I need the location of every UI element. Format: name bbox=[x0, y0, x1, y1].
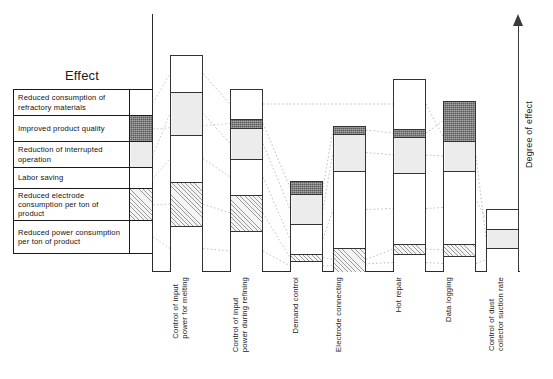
bar-segment-white[interactable] bbox=[487, 210, 518, 230]
chart-canvas: Effect Reduced consumption of refractory… bbox=[0, 0, 553, 379]
bar-segment-hatch[interactable] bbox=[334, 249, 365, 272]
legend-swatch-lightgray bbox=[130, 142, 152, 167]
bar-segment-lightgray[interactable] bbox=[487, 230, 518, 249]
vertical-axis-line bbox=[152, 14, 153, 271]
legend-row[interactable]: Reduced power consumption per ton of pro… bbox=[14, 221, 152, 253]
effect-legend-table: Reduced consumption of refractory materi… bbox=[13, 89, 153, 254]
bar-segment-white[interactable] bbox=[171, 56, 202, 93]
stacked-bar[interactable] bbox=[333, 126, 366, 271]
bar-segment-white[interactable] bbox=[231, 160, 262, 196]
bar-segment-lightgray[interactable] bbox=[334, 135, 365, 172]
legend-swatch-white bbox=[130, 221, 152, 253]
category-label: Control of input power for melting bbox=[171, 277, 190, 339]
bar-segment-dark[interactable] bbox=[394, 130, 425, 138]
bar-segment-dark[interactable] bbox=[231, 120, 262, 129]
bar-segment-lightgray[interactable] bbox=[394, 138, 425, 174]
stacked-bar[interactable] bbox=[393, 79, 426, 271]
stacked-bar[interactable] bbox=[486, 209, 519, 271]
category-label: Control of input power during refining bbox=[231, 277, 250, 352]
legend-row-label: Reduced power consumption per ton of pro… bbox=[14, 221, 130, 253]
category-label: Hot repair bbox=[394, 277, 403, 312]
legend-swatch-white bbox=[130, 168, 152, 188]
bar-segment-white[interactable] bbox=[444, 257, 475, 272]
bar-segment-hatch[interactable] bbox=[444, 245, 475, 257]
bar-segment-white[interactable] bbox=[171, 136, 202, 183]
legend-row-label: Reduced electrode consumption per ton of… bbox=[14, 189, 130, 220]
legend-row-label: Labor saving bbox=[14, 168, 130, 188]
legend-row-label: Reduced consumption of refractory materi… bbox=[14, 90, 130, 115]
bar-segment-hatch[interactable] bbox=[231, 196, 262, 232]
stacked-bar[interactable] bbox=[290, 181, 323, 271]
bar-segment-lightgray[interactable] bbox=[231, 129, 262, 160]
legend-row[interactable]: Reduction of interrupted operation bbox=[14, 142, 152, 168]
legend-row[interactable]: Improved product quality bbox=[14, 116, 152, 142]
legend-row[interactable]: Reduced consumption of refractory materi… bbox=[14, 90, 152, 116]
legend-swatch-white bbox=[130, 90, 152, 115]
bar-segment-white[interactable] bbox=[231, 232, 262, 272]
bar-segment-white[interactable] bbox=[171, 227, 202, 272]
legend-title: Effect bbox=[12, 68, 152, 83]
bar-segment-white[interactable] bbox=[291, 262, 322, 272]
bar-segment-white[interactable] bbox=[291, 225, 322, 255]
legend-row[interactable]: Labor saving bbox=[14, 168, 152, 189]
bar-segment-dark[interactable] bbox=[444, 102, 475, 142]
legend-row[interactable]: Reduced electrode consumption per ton of… bbox=[14, 189, 152, 221]
legend-row-label: Improved product quality bbox=[14, 116, 130, 141]
legend-row-label: Reduction of interrupted operation bbox=[14, 142, 130, 167]
axis-arrow-line bbox=[518, 24, 519, 271]
category-label: Control of dust collector suction rate bbox=[487, 277, 506, 351]
bar-segment-dark[interactable] bbox=[291, 182, 322, 195]
bar-segment-lightgray[interactable] bbox=[291, 195, 322, 225]
bar-segment-lightgray[interactable] bbox=[171, 93, 202, 136]
bar-segment-white[interactable] bbox=[394, 80, 425, 130]
bar-segment-dark[interactable] bbox=[334, 127, 365, 135]
bar-segment-white[interactable] bbox=[394, 255, 425, 272]
stacked-bar[interactable] bbox=[170, 55, 203, 271]
bar-segment-white[interactable] bbox=[231, 90, 262, 120]
legend-swatch-dark bbox=[130, 116, 152, 141]
bar-segment-hatch[interactable] bbox=[171, 183, 202, 227]
bar-segment-hatch[interactable] bbox=[291, 255, 322, 262]
bar-segment-white[interactable] bbox=[444, 172, 475, 245]
legend-swatch-hatch bbox=[130, 189, 152, 220]
bar-segment-lightgray[interactable] bbox=[444, 142, 475, 172]
category-label: Electrode connecting bbox=[334, 277, 343, 352]
bar-segment-white[interactable] bbox=[394, 174, 425, 245]
category-label: Demand control bbox=[291, 277, 300, 333]
stacked-bar[interactable] bbox=[443, 101, 476, 271]
bar-segment-hatch[interactable] bbox=[394, 245, 425, 255]
degree-of-effect-label: Degree of effect bbox=[524, 101, 534, 168]
bar-segment-white[interactable] bbox=[487, 249, 518, 272]
category-label: Data logging bbox=[444, 277, 453, 322]
stacked-bar[interactable] bbox=[230, 89, 263, 271]
bar-segment-white[interactable] bbox=[334, 172, 365, 249]
